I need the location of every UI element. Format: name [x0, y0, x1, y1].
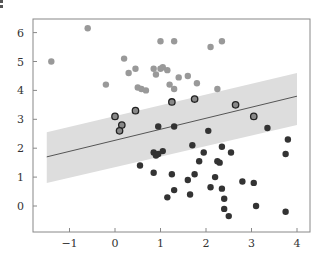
- data-point-class-lower: [187, 191, 193, 197]
- data-point-class-upper: [143, 87, 149, 93]
- data-point-class-lower: [226, 213, 232, 219]
- data-point-class-lower: [221, 196, 227, 202]
- data-point-class-lower: [153, 152, 159, 158]
- data-point-class-lower: [171, 123, 177, 129]
- data-point-class-lower: [160, 148, 166, 154]
- x-tick-label: −1: [61, 237, 77, 250]
- data-point-class-lower: [201, 149, 207, 155]
- data-point-class-lower: [239, 178, 245, 184]
- x-axis: −101234: [61, 228, 300, 250]
- data-point-class-lower: [285, 136, 291, 142]
- data-point-class-lower: [189, 142, 195, 148]
- x-tick-label: 1: [157, 237, 164, 250]
- data-point-class-upper: [153, 71, 159, 77]
- data-point-class-lower: [253, 203, 259, 209]
- data-point-class-upper: [150, 66, 156, 72]
- data-point-class-upper: [48, 58, 54, 64]
- data-point-class-lower: [251, 180, 257, 186]
- data-point-class-upper: [219, 38, 225, 44]
- data-point-class-lower: [164, 194, 170, 200]
- data-point-support-vectors: [169, 99, 175, 105]
- data-point-class-upper: [164, 67, 170, 73]
- data-point-class-lower: [212, 174, 218, 180]
- y-tick-label: 2: [17, 142, 24, 155]
- data-point-class-upper: [132, 66, 138, 72]
- data-point-class-upper: [125, 70, 131, 76]
- y-tick-label: 0: [17, 200, 24, 213]
- data-point-class-upper: [85, 25, 91, 31]
- data-point-class-lower: [207, 184, 213, 190]
- x-tick-label: 3: [248, 237, 255, 250]
- data-point-class-lower: [282, 209, 288, 215]
- scatter-chart: −101234 0123456: [0, 0, 324, 258]
- y-tick-label: 5: [17, 56, 24, 69]
- y-tick-label: 6: [17, 27, 24, 40]
- data-point-class-upper: [207, 44, 213, 50]
- data-point-support-vectors: [116, 128, 122, 134]
- data-point-class-lower: [169, 171, 175, 177]
- data-point-class-lower: [228, 149, 234, 155]
- y-tick-label: 3: [17, 113, 24, 126]
- data-point-class-lower: [219, 144, 225, 150]
- data-point-support-vectors: [112, 113, 118, 119]
- data-point-class-upper: [171, 86, 177, 92]
- data-point-support-vectors: [232, 102, 238, 108]
- data-point-class-lower: [282, 151, 288, 157]
- data-point-support-vectors: [132, 107, 138, 113]
- y-tick-label: 1: [17, 171, 24, 184]
- data-point-class-lower: [219, 185, 225, 191]
- data-point-class-lower: [155, 123, 161, 129]
- data-point-class-lower: [171, 187, 177, 193]
- data-point-class-upper: [176, 74, 182, 80]
- data-point-support-vectors: [191, 96, 197, 102]
- data-point-support-vectors: [251, 113, 257, 119]
- data-point-class-lower: [196, 158, 202, 164]
- data-point-class-upper: [194, 80, 200, 86]
- data-point-class-lower: [264, 125, 270, 131]
- data-point-class-upper: [157, 38, 163, 44]
- data-point-class-upper: [171, 38, 177, 44]
- y-axis: 0123456: [17, 27, 37, 213]
- data-point-class-upper: [185, 73, 191, 79]
- data-point-class-lower: [191, 171, 197, 177]
- data-point-class-upper: [103, 81, 109, 87]
- y-tick-label: 4: [17, 84, 24, 97]
- data-point-class-upper: [121, 55, 127, 61]
- x-tick-label: 0: [112, 237, 119, 250]
- data-point-class-upper: [214, 86, 220, 92]
- x-tick-label: 2: [203, 237, 210, 250]
- x-tick-label: 4: [294, 237, 301, 250]
- data-point-class-lower: [214, 158, 220, 164]
- data-point-class-lower: [137, 162, 143, 168]
- data-point-class-lower: [150, 170, 156, 176]
- data-point-class-lower: [205, 128, 211, 134]
- data-point-class-lower: [185, 177, 191, 183]
- data-point-class-lower: [221, 206, 227, 212]
